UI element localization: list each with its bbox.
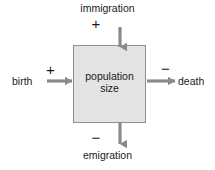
death-label: death xyxy=(178,76,204,87)
birth-label: birth xyxy=(12,76,32,87)
population-size-line2: size xyxy=(73,82,146,94)
emigration-label: emigration xyxy=(0,150,215,161)
death-sign: − xyxy=(161,61,170,76)
population-size-box-text: population size xyxy=(73,70,146,94)
population-flow-diagram: immigration + birth + death − emigration… xyxy=(0,0,215,170)
immigration-label: immigration xyxy=(0,3,215,14)
birth-sign: + xyxy=(46,62,55,77)
population-size-line1: population xyxy=(73,70,146,82)
emigration-sign: − xyxy=(0,130,192,145)
immigration-sign: + xyxy=(0,16,192,31)
